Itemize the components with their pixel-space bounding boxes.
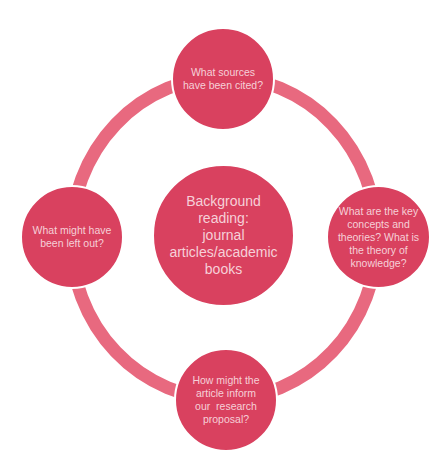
node-line: How might the (192, 374, 259, 387)
node-line: knowledge? (338, 257, 419, 270)
center-line: journal (169, 227, 277, 244)
left-node: What might have been left out? (20, 185, 124, 289)
center-line: books (169, 261, 277, 278)
bottom-node: How might the article inform our researc… (174, 348, 278, 452)
node-line: article inform (192, 387, 259, 400)
right-node: What are the key concepts and theories? … (326, 185, 431, 289)
center-node-text: Background reading: journal articles/aca… (169, 193, 277, 278)
bottom-node-text: How might the article inform our researc… (192, 374, 259, 426)
center-node: Background reading: journal articles/aca… (152, 164, 295, 307)
right-node-text: What are the key concepts and theories? … (338, 205, 419, 270)
center-line: articles/academic (169, 244, 277, 261)
node-line: What sources (183, 66, 263, 79)
top-node: What sources have been cited? (171, 27, 275, 131)
node-line: been left out? (33, 237, 112, 250)
node-line: our research (192, 400, 259, 413)
node-line: have been cited? (183, 79, 263, 92)
node-line: concepts and (338, 218, 419, 231)
node-line: What are the key (338, 205, 419, 218)
node-line: the theory of (338, 244, 419, 257)
center-line: Background (169, 193, 277, 210)
center-line: reading: (169, 210, 277, 227)
node-line: theories? What is (338, 231, 419, 244)
top-node-text: What sources have been cited? (183, 66, 263, 92)
node-line: What might have (33, 224, 112, 237)
node-line: proposal? (192, 413, 259, 426)
left-node-text: What might have been left out? (33, 224, 112, 250)
